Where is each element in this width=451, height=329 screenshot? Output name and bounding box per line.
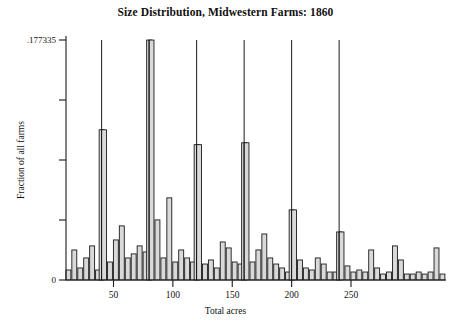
histogram-bar — [173, 262, 178, 280]
histogram-bar — [339, 232, 344, 280]
histogram-bar — [232, 262, 237, 280]
y-axis-tick-label: .177335 — [27, 35, 56, 45]
histogram-bar — [119, 226, 124, 280]
x-axis-tick-label: 50 — [109, 290, 119, 300]
x-axis-tick-label: 200 — [285, 290, 299, 300]
histogram-bar — [102, 130, 107, 280]
histogram-chart: Size Distribution, Midwestern Farms: 186… — [0, 0, 451, 329]
histogram-bar — [357, 270, 362, 280]
histogram-bar — [268, 258, 273, 280]
histogram-bar — [185, 258, 190, 280]
histogram-bar — [363, 272, 368, 280]
histogram-bar — [256, 250, 261, 280]
histogram-bar — [107, 262, 112, 280]
histogram-bar — [250, 262, 255, 280]
histogram-bar — [309, 270, 314, 280]
histogram-bar — [137, 246, 142, 280]
histogram-bar — [125, 258, 130, 280]
histogram-bar — [327, 272, 332, 280]
histogram-bar — [375, 268, 380, 280]
histogram-bar — [321, 264, 326, 280]
y-axis-tick-label: 0 — [52, 275, 57, 285]
x-axis-tick-label: 150 — [225, 290, 239, 300]
histogram-bar — [428, 272, 433, 280]
histogram-bar — [292, 210, 297, 280]
histogram-bar — [434, 248, 439, 280]
histogram-bar — [262, 234, 267, 280]
histogram-bar — [202, 264, 207, 280]
x-axis-tick-label: 250 — [344, 290, 358, 300]
histogram-bar — [113, 240, 118, 280]
histogram-bar — [197, 145, 202, 280]
histogram-bar — [297, 260, 302, 280]
histogram-bar — [72, 250, 77, 280]
histogram-bar — [387, 272, 392, 280]
x-axis-tick-label: 100 — [166, 290, 180, 300]
histogram-bar — [274, 264, 279, 280]
histogram-bar — [422, 274, 427, 280]
histogram-bar — [155, 220, 160, 280]
histogram-bar — [369, 250, 374, 280]
histogram-bar — [90, 246, 95, 280]
histogram-bar — [315, 258, 320, 280]
histogram-bar — [214, 268, 219, 280]
histogram-bar — [220, 242, 225, 280]
histogram-bar — [345, 266, 350, 280]
histogram-bar — [280, 268, 285, 280]
histogram-bar — [351, 272, 356, 280]
plot-area — [0, 0, 451, 329]
histogram-bar — [167, 198, 172, 280]
histogram-bar — [440, 274, 445, 280]
histogram-bar — [226, 248, 231, 280]
bar-series — [66, 40, 445, 280]
histogram-bar — [78, 268, 83, 280]
histogram-bar — [410, 274, 415, 280]
histogram-bar — [404, 274, 409, 280]
histogram-bar — [84, 258, 89, 280]
histogram-bar — [179, 250, 184, 280]
histogram-bar — [381, 274, 386, 280]
histogram-bar — [244, 143, 249, 280]
histogram-bar — [66, 270, 71, 280]
histogram-bar — [392, 246, 397, 280]
histogram-bar — [149, 40, 154, 280]
histogram-bar — [131, 254, 136, 280]
histogram-bar — [161, 258, 166, 280]
histogram-bar — [303, 268, 308, 280]
histogram-bar — [398, 260, 403, 280]
histogram-bar — [208, 260, 213, 280]
histogram-bar — [416, 272, 421, 280]
